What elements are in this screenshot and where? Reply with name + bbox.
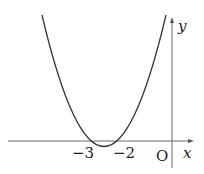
tick-label-neg2: −2 — [113, 144, 135, 162]
x-axis-label: x — [183, 144, 192, 162]
x-axis-arrow-icon — [188, 139, 194, 143]
y-axis-label: y — [177, 17, 187, 35]
tick-label-neg3: −3 — [72, 144, 94, 162]
origin-label: O — [156, 147, 168, 165]
parabola-curve — [42, 15, 166, 147]
y-axis-arrow-icon — [170, 17, 174, 23]
parabola-graph: y x O −3 −2 — [0, 0, 204, 174]
